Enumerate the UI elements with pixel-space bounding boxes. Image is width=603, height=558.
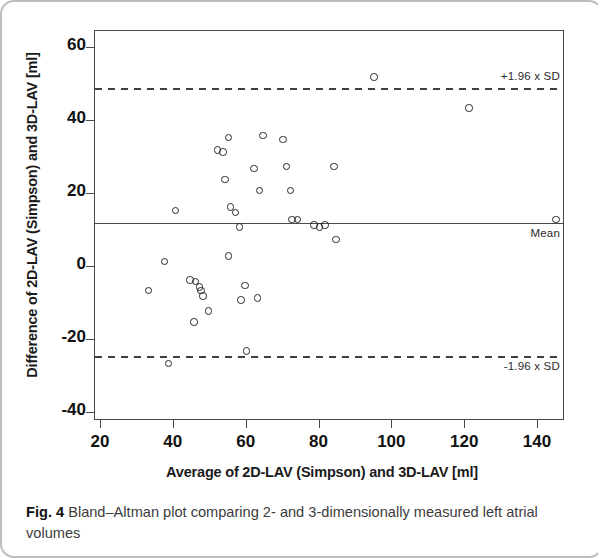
data-point <box>237 296 245 304</box>
data-point <box>552 216 560 224</box>
data-point <box>294 216 302 224</box>
data-point <box>332 236 340 244</box>
y-tick-40 <box>86 120 94 121</box>
x-tick-label-80: 80 <box>289 432 349 452</box>
y-tick-label--40: -40 <box>32 400 86 420</box>
x-tick-40 <box>173 420 174 428</box>
y-tick-label-40: 40 <box>32 108 86 128</box>
data-point <box>161 258 169 266</box>
y-tick-label-60: 60 <box>32 35 86 55</box>
data-point <box>256 187 264 195</box>
x-tick-label-120: 120 <box>434 432 494 452</box>
data-point <box>321 221 329 229</box>
data-point <box>250 165 258 173</box>
x-tick-80 <box>319 420 320 428</box>
y-tick--40 <box>86 412 94 413</box>
y-axis-title: Difference of 2D-LAV (Simpson) and 3D-LA… <box>24 15 40 415</box>
data-point <box>283 163 291 171</box>
x-tick-120 <box>464 420 465 428</box>
data-point <box>145 287 153 295</box>
x-axis-title: Average of 2D-LAV (Simpson) and 3D-LAV [… <box>97 464 547 480</box>
data-point <box>370 73 378 81</box>
figure-card: Difference of 2D-LAV (Simpson) and 3D-LA… <box>0 0 603 558</box>
y-tick-60 <box>86 47 94 48</box>
x-tick-label-100: 100 <box>361 432 421 452</box>
reference-line-lower-loa <box>95 356 563 358</box>
x-tick-label-60: 60 <box>216 432 276 452</box>
y-tick-0 <box>86 266 94 267</box>
figure-caption-label: Fig. 4 <box>26 504 64 520</box>
plot-area <box>94 30 564 420</box>
y-tick--20 <box>86 339 94 340</box>
x-tick-100 <box>391 420 392 428</box>
reference-label-lower-loa: -1.96 x SD <box>504 360 560 372</box>
data-point <box>243 347 251 355</box>
x-tick-label-40: 40 <box>143 432 203 452</box>
y-tick-label--20: -20 <box>32 327 86 347</box>
x-tick-label-20: 20 <box>70 432 130 452</box>
data-point <box>232 209 240 217</box>
data-point <box>254 294 262 302</box>
data-point <box>279 136 287 144</box>
x-tick-140 <box>537 420 538 428</box>
reference-label-mean: Mean <box>530 227 560 239</box>
data-point <box>172 207 180 215</box>
reference-line-upper-loa <box>95 88 563 90</box>
x-tick-20 <box>100 420 101 428</box>
y-tick-20 <box>86 193 94 194</box>
data-point <box>199 292 207 300</box>
data-point <box>219 148 227 156</box>
x-tick-60 <box>246 420 247 428</box>
bland-altman-plot: Difference of 2D-LAV (Simpson) and 3D-LA… <box>2 2 603 492</box>
data-point <box>225 134 233 142</box>
data-point <box>205 307 213 315</box>
figure-caption-text: Bland–Altman plot comparing 2- and 3-dim… <box>26 504 538 541</box>
data-point <box>225 252 233 260</box>
y-tick-label-20: 20 <box>32 181 86 201</box>
data-point <box>190 318 198 326</box>
data-point <box>259 132 267 140</box>
y-tick-label-0: 0 <box>32 254 86 274</box>
data-point <box>465 104 473 112</box>
figure-caption: Fig. 4 Bland–Altman plot comparing 2- an… <box>26 502 586 543</box>
data-point <box>236 223 244 231</box>
data-point <box>241 282 249 290</box>
x-tick-label-140: 140 <box>507 432 567 452</box>
reference-line-mean <box>95 223 563 224</box>
reference-label-upper-loa: +1.96 x SD <box>501 70 560 82</box>
data-point <box>165 360 173 368</box>
data-point <box>287 187 295 195</box>
data-point <box>221 176 229 184</box>
data-point <box>330 163 338 171</box>
